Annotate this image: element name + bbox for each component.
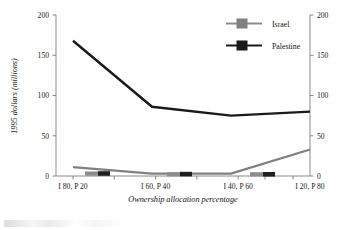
x-tick-label-3: I 20, P 80 bbox=[295, 182, 324, 191]
x-tick-label-2: I 40, P 60 bbox=[224, 182, 253, 191]
legend-item-israel[interactable]: Israel bbox=[226, 19, 290, 29]
line-chart: 200 150 100 50 0 200 150 100 50 0 bbox=[0, 0, 350, 230]
left-tick-label-100: 100 bbox=[38, 91, 50, 100]
right-tick-label-50: 50 bbox=[317, 132, 325, 141]
left-tick-label-0: 0 bbox=[45, 172, 49, 181]
bottom-axis: I 80, P 20 I 60, P 40 I 40, P 60 I 20, P… bbox=[56, 176, 325, 191]
x-tick-label-0: I 80, P 20 bbox=[58, 182, 87, 191]
israel-marker-1 bbox=[167, 172, 180, 176]
israel-line bbox=[73, 149, 310, 173]
israel-marker-0 bbox=[85, 172, 98, 176]
chart-legend: Israel Palestine bbox=[226, 19, 301, 51]
palestine-line bbox=[73, 41, 310, 116]
left-tick-label-200: 200 bbox=[38, 11, 50, 20]
right-tick-label-0: 0 bbox=[317, 172, 321, 181]
left-tick-label-150: 150 bbox=[38, 51, 50, 60]
x-axis-title: Ownership allocation percentage bbox=[128, 195, 238, 204]
legend-item-palestine[interactable]: Palestine bbox=[226, 41, 301, 51]
y-axis-title: 1995 dollars (millions) bbox=[10, 58, 19, 134]
israel-marker-2 bbox=[250, 172, 263, 176]
chart-figure: 200 150 100 50 0 200 150 100 50 0 bbox=[0, 0, 350, 230]
legend-label-israel: Israel bbox=[272, 20, 290, 29]
legend-swatch-palestine bbox=[237, 41, 248, 51]
right-tick-label-150: 150 bbox=[317, 51, 329, 60]
right-axis: 200 150 100 50 0 bbox=[310, 11, 329, 181]
palestine-marker-2 bbox=[263, 172, 275, 177]
right-tick-label-200: 200 bbox=[317, 11, 329, 20]
legend-label-palestine: Palestine bbox=[272, 42, 301, 51]
right-tick-label-100: 100 bbox=[317, 91, 329, 100]
palestine-marker-0 bbox=[98, 171, 110, 176]
left-axis: 200 150 100 50 0 bbox=[38, 11, 56, 181]
x-tick-label-1: I 60, P 40 bbox=[141, 182, 170, 191]
legend-swatch-israel bbox=[237, 19, 248, 29]
palestine-marker-1 bbox=[180, 172, 192, 177]
scan-artifact bbox=[4, 220, 124, 227]
left-tick-label-50: 50 bbox=[41, 132, 49, 141]
series-palestine bbox=[73, 41, 310, 177]
